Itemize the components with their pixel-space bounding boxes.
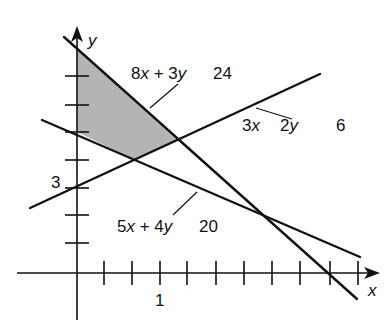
leader-5x-4y (173, 192, 197, 215)
constraint-rhs-20: 20 (199, 217, 218, 236)
constraint-label-3x-2y-part2: 2y (280, 116, 299, 135)
constraint-label-3x-2y: 3x (242, 116, 260, 135)
y-tick-label-3: 3 (51, 173, 60, 192)
axes (17, 34, 372, 320)
x-tick-label-1: 1 (155, 291, 164, 310)
x-axis-label: x (367, 281, 377, 300)
constraint-rhs-24: 24 (213, 64, 232, 83)
constraint-rhs-6: 6 (336, 116, 345, 135)
constraint-line-5x-4y (42, 120, 360, 257)
constraint-label-5x-4y: 5x + 4y (117, 217, 174, 236)
y-axis-label: y (87, 31, 98, 50)
constraint-label-8x-3y: 8x + 3y (131, 64, 188, 83)
lp-diagram: y x 3 1 8x + 3y 24 3x 2y 6 5x + 4y 20 (0, 0, 392, 325)
constraint-line-3x-2y (30, 74, 320, 208)
leader-8x-3y (150, 84, 178, 108)
